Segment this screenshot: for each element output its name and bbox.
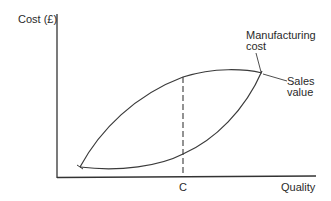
manufacturing-cost-label: Manufacturing cost xyxy=(246,30,316,52)
sales-value-curve xyxy=(80,70,262,167)
manufacturing-label-line2: cost xyxy=(246,41,316,52)
manufacturing-leader-line xyxy=(256,53,261,72)
manufacturing-cost-curve xyxy=(80,71,262,169)
quality-cost-chart: Cost (£) Quality C Manufacturing cost Sa… xyxy=(0,0,331,201)
sales-leader-line xyxy=(263,74,287,81)
y-axis-label: Cost (£) xyxy=(18,14,57,25)
x-axis-label: Quality xyxy=(281,182,315,193)
x-axis xyxy=(57,176,316,178)
sales-label-line2: value xyxy=(287,87,315,98)
sales-value-label: Sales value xyxy=(287,76,315,98)
x-tick-c: C xyxy=(179,182,187,193)
